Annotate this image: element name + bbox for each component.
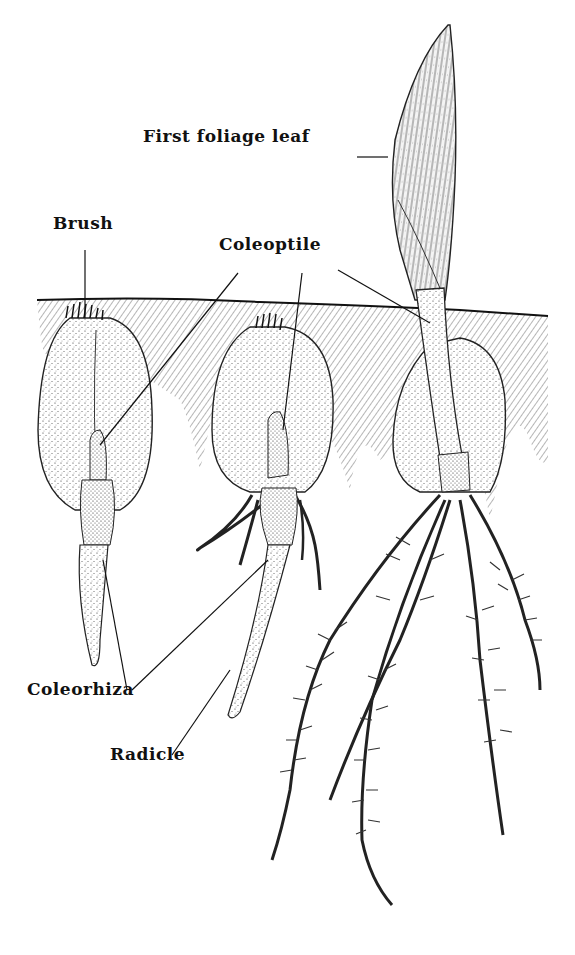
label-brush: Brush [53, 213, 113, 233]
label-radicle: Radicle [110, 744, 185, 764]
seed-stage-1 [38, 302, 152, 666]
label-coleoptile: Coleoptile [219, 234, 321, 254]
leader-line-radicle [172, 670, 230, 755]
label-first-foliage-leaf: First foliage leaf [143, 126, 310, 146]
first-foliage-leaf-shape [392, 25, 455, 300]
leader-line-coleorhiza [103, 560, 127, 690]
seed-stage-2 [198, 313, 334, 718]
label-coleorhiza: Coleorhiza [27, 679, 134, 699]
